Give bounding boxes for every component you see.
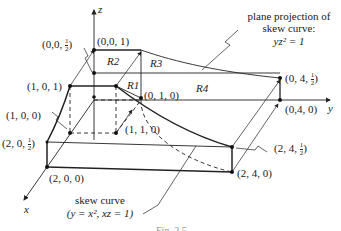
point-2-0-0: (2, 0, 0)	[49, 173, 84, 184]
point-0-0-1: (0,0, 1)	[97, 36, 129, 47]
point-2-4-0: (2, 4, 0)	[237, 168, 272, 179]
point-1-0-1: (1, 0, 1)	[27, 81, 62, 92]
point-1-0-0: (1, 0, 0)	[6, 110, 41, 121]
point-0-1-0: (0, 1, 0)	[144, 90, 179, 101]
plane-projection-annotation-line1: plane projection of	[242, 11, 336, 22]
point-2-0-half: (2, 0, 12)	[2, 137, 35, 152]
region-r4: R4	[196, 83, 208, 94]
x-axis-label: x	[24, 204, 29, 215]
skew-curve-equation: (y = x², xz = 1)	[52, 208, 148, 219]
point-0-4-half: (0, 4, 12)	[285, 72, 318, 87]
plane-projection-equation: yz² = 1	[242, 36, 336, 47]
plane-projection-annotation-line2: skew curve:	[242, 23, 336, 34]
point-0-0-half: (0,0, 12)	[42, 38, 72, 53]
point-2-4-half: (2, 4, 12)	[274, 142, 307, 157]
skew-curve-annotation-line1: skew curve	[55, 195, 145, 206]
point-0-4-0: (0,4, 0)	[285, 104, 317, 115]
region-r2: R2	[107, 56, 119, 67]
y-axis-label: y	[328, 103, 333, 114]
z-axis-label: z	[98, 4, 102, 15]
region-r3: R3	[150, 58, 162, 69]
point-1-1-0: (1, 1, 0)	[125, 124, 160, 135]
figure-caption: Fig. 2.5	[156, 225, 187, 231]
region-r1: R1	[127, 80, 139, 91]
